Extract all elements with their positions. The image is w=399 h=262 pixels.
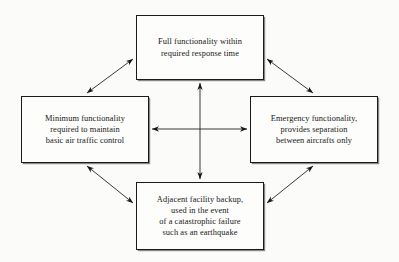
node-label: Emergency functionality, provides separa…: [267, 113, 361, 147]
connector-left-to-bottom: [87, 166, 133, 203]
node-emergency-functionality: Emergency functionality, provides separa…: [250, 96, 378, 163]
node-label: Full functionality within required respo…: [154, 36, 246, 59]
connector-top-to-right: [267, 59, 313, 93]
node-minimum-functionality: Minimum functionality required to mainta…: [21, 96, 149, 163]
connector-top-to-left: [87, 59, 133, 93]
connector-right-to-bottom: [267, 166, 313, 203]
diagram-canvas: Full functionality within required respo…: [0, 0, 399, 262]
node-label: Minimum functionality required to mainta…: [41, 113, 129, 147]
node-label: Adjacent facility backup, used in the ev…: [153, 194, 247, 239]
node-full-functionality: Full functionality within required respo…: [136, 15, 264, 80]
node-adjacent-facility-backup: Adjacent facility backup, used in the ev…: [136, 182, 264, 250]
